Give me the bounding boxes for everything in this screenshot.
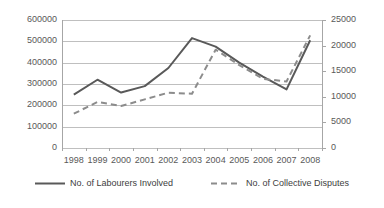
legend-item[interactable]: No. of Collective Disputes: [211, 178, 349, 188]
solid-line-icon: [35, 179, 65, 188]
line-chart: 0100000200000300000400000500000600000 05…: [0, 0, 384, 208]
series-line: [74, 38, 310, 95]
chart-legend: No. of Labourers InvolvedNo. of Collecti…: [0, 178, 384, 188]
dashed-line-icon: [211, 179, 241, 188]
legend-label: No. of Labourers Involved: [70, 178, 173, 188]
legend-item[interactable]: No. of Labourers Involved: [35, 178, 173, 188]
legend-label: No. of Collective Disputes: [246, 178, 349, 188]
plot-area: [0, 0, 384, 208]
series-line: [74, 35, 310, 113]
